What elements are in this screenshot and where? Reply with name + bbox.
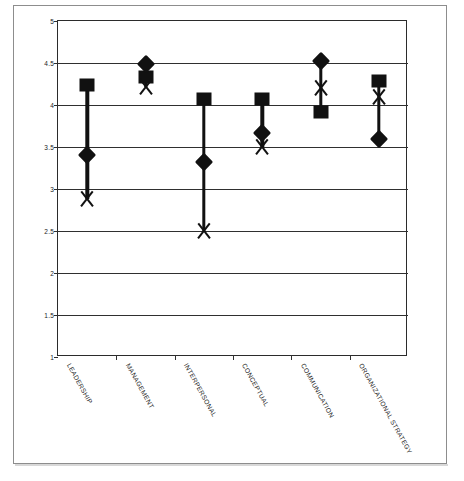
x-category-label: CONCEPTUAL bbox=[241, 362, 271, 408]
data-point-x bbox=[78, 190, 96, 208]
y-tick-label: 2.5 bbox=[44, 228, 54, 235]
y-tick-mark bbox=[54, 357, 58, 358]
chart-page: 54.543.532.521.51 LEADERSHIPMANAGEMENTIN… bbox=[0, 0, 464, 481]
plot-area: 54.543.532.521.51 bbox=[57, 20, 407, 356]
gridline bbox=[58, 63, 408, 64]
data-point-diamond bbox=[78, 145, 96, 163]
data-point-square bbox=[80, 78, 95, 91]
gridline bbox=[58, 105, 408, 106]
data-point-diamond bbox=[195, 153, 213, 171]
gridline bbox=[58, 231, 408, 232]
x-category-label: MANAGEMENT bbox=[124, 362, 155, 410]
x-category-label: ORGANIZATIONAL STRATEGY bbox=[358, 362, 414, 455]
gridline bbox=[58, 147, 408, 148]
y-tick-mark bbox=[54, 273, 58, 274]
y-tick-label: 3 bbox=[50, 186, 54, 193]
data-point-square bbox=[255, 93, 270, 106]
x-category-label: COMMUNICATION bbox=[299, 362, 335, 419]
y-tick-mark bbox=[54, 231, 58, 232]
y-tick-label: 1.5 bbox=[44, 312, 54, 319]
y-tick-label: 5 bbox=[50, 18, 54, 25]
x-category-label: INTERPERSONAL bbox=[183, 362, 218, 418]
data-point-x bbox=[137, 78, 155, 96]
y-tick-mark bbox=[54, 21, 58, 22]
x-tick-mark bbox=[291, 355, 292, 360]
x-tick-mark bbox=[175, 355, 176, 360]
x-axis-category-labels: LEADERSHIPMANAGEMENTINTERPERSONALCONCEPT… bbox=[57, 362, 407, 472]
y-tick-label: 4.5 bbox=[44, 60, 54, 67]
gridline bbox=[58, 315, 408, 316]
data-point-square bbox=[196, 93, 211, 106]
y-tick-label: 4 bbox=[50, 102, 54, 109]
y-tick-mark bbox=[54, 315, 58, 316]
x-category-label: LEADERSHIP bbox=[66, 362, 94, 405]
y-tick-mark bbox=[54, 147, 58, 148]
data-point-diamond bbox=[370, 129, 388, 147]
gridline bbox=[58, 189, 408, 190]
data-point-x bbox=[253, 138, 271, 156]
x-tick-mark bbox=[350, 355, 351, 360]
data-point-square bbox=[313, 105, 328, 118]
data-point-square bbox=[371, 75, 386, 88]
x-tick-mark bbox=[233, 355, 234, 360]
y-tick-mark bbox=[54, 63, 58, 64]
y-tick-label: 1 bbox=[50, 354, 54, 361]
data-point-x bbox=[195, 222, 213, 240]
y-tick-mark bbox=[54, 189, 58, 190]
y-tick-label: 3.5 bbox=[44, 144, 54, 151]
gridline bbox=[58, 273, 408, 274]
x-tick-mark bbox=[116, 355, 117, 360]
data-point-x bbox=[370, 88, 388, 106]
data-point-diamond bbox=[311, 52, 329, 70]
y-tick-mark bbox=[54, 105, 58, 106]
y-tick-label: 2 bbox=[50, 270, 54, 277]
series-connector-line bbox=[85, 85, 88, 199]
data-point-x bbox=[312, 79, 330, 97]
